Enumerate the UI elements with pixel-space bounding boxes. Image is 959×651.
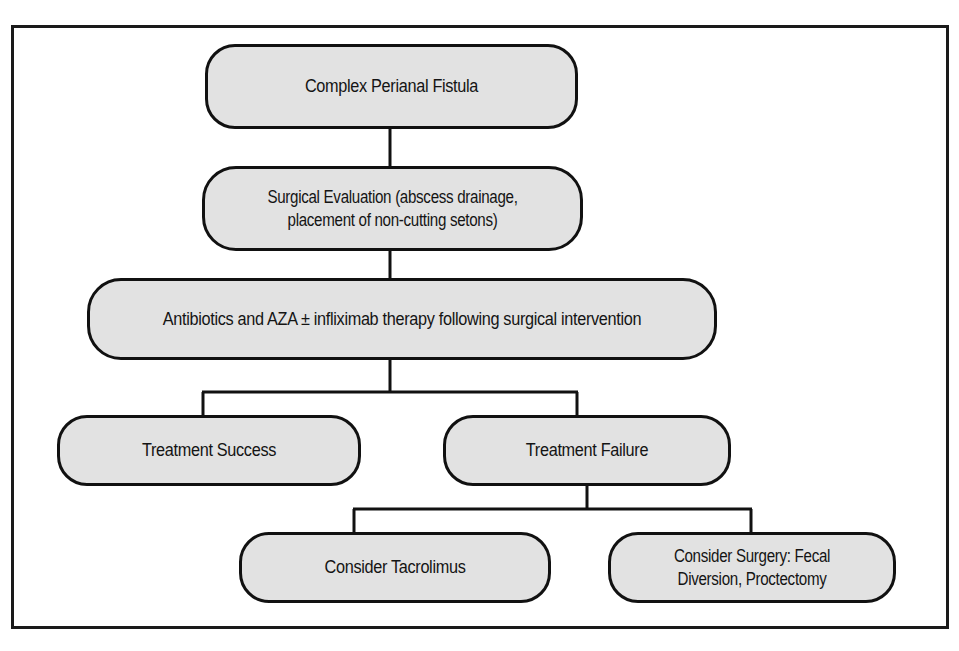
node-label: Complex Perianal Fistula <box>234 75 549 97</box>
node-consider-surgery: Consider Surgery: Fecal Diversion, Proct… <box>608 532 896 603</box>
node-label: Treatment Failure <box>469 439 705 461</box>
node-antibiotics-aza-infliximab: Antibiotics and AZA ± infliximab therapy… <box>87 278 717 360</box>
node-label: Consider Tacrolimus <box>266 556 525 578</box>
node-treatment-success: Treatment Success <box>57 415 361 486</box>
node-label-line-1: Surgical Evaluation (abscess drainage, <box>242 186 542 208</box>
node-label: Antibiotics and AZA ± infliximab therapy… <box>125 308 679 330</box>
node-complex-perianal-fistula: Complex Perianal Fistula <box>205 44 578 129</box>
node-label: Treatment Success <box>83 439 334 461</box>
node-label-line-1: Consider Surgery: Fecal <box>642 545 862 567</box>
node-surgical-evaluation: Surgical Evaluation (abscess drainage, p… <box>202 166 583 251</box>
flowchart-figure: Complex Perianal Fistula Surgical Evalua… <box>0 0 959 651</box>
node-label-multiline: Consider Surgery: Fecal Diversion, Proct… <box>634 545 870 590</box>
node-label-line-2: placement of non-cutting setons) <box>242 209 542 231</box>
node-treatment-failure: Treatment Failure <box>443 415 731 486</box>
node-label-line-2: Diversion, Proctectomy <box>642 568 862 590</box>
node-consider-tacrolimus: Consider Tacrolimus <box>239 532 551 603</box>
node-label-multiline: Surgical Evaluation (abscess drainage, p… <box>231 186 554 231</box>
